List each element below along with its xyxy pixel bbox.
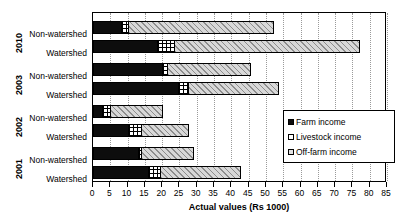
legend-swatch-livestock-income — [288, 134, 294, 140]
y-axis-category-label: Non-watershed — [20, 66, 90, 85]
stacked-bar — [93, 82, 279, 95]
stacked-bar — [93, 40, 360, 53]
bar-segment-offfarm — [110, 105, 163, 118]
bar-row — [93, 19, 385, 38]
y-axis-category-rows: Non-watershedWatershed — [20, 108, 90, 146]
x-axis-tick — [282, 182, 283, 187]
stacked-bar — [93, 147, 194, 160]
y-axis-category-label: Non-watershed — [20, 24, 90, 43]
y-axis-category-rows: Non-watershedWatershed — [20, 66, 90, 104]
y-axis-category-label: Watershed — [20, 85, 90, 104]
y-axis-category-label: Non-watershed — [20, 150, 90, 169]
bar-row — [93, 61, 385, 80]
bar-segment-farm — [93, 21, 122, 34]
x-axis-tick — [386, 182, 387, 187]
x-axis-tick — [178, 182, 179, 187]
x-axis-tick — [144, 182, 145, 187]
y-axis-category-label: Watershed — [20, 43, 90, 62]
x-axis-tick — [317, 182, 318, 187]
stacked-bar — [93, 63, 251, 76]
y-axis-category-label: Watershed — [20, 169, 90, 188]
bar-row — [93, 164, 385, 183]
y-axis-group-2001: 2001Non-watershedWatershed — [0, 150, 92, 188]
legend-label-farm-income: Farm income — [296, 117, 346, 127]
bar-row — [93, 38, 385, 57]
x-axis-tick — [369, 182, 370, 187]
legend-item-off-farm-income: Off-farm income — [288, 144, 391, 159]
bar-segment-offfarm — [141, 147, 194, 160]
bar-row — [93, 80, 385, 99]
bar-segment-farm — [93, 82, 179, 95]
legend-label-livestock-income: Livestock income — [296, 132, 361, 142]
y-axis-category-rows: Non-watershedWatershed — [20, 150, 90, 188]
stacked-bar — [93, 105, 163, 118]
bar-segment-farm — [93, 40, 158, 53]
bar-segment-livestock — [128, 124, 143, 137]
x-axis-tick — [213, 182, 214, 187]
stacked-bar — [93, 166, 241, 179]
x-axis-tick — [334, 182, 335, 187]
legend-item-livestock-income: Livestock income — [288, 129, 391, 144]
x-axis-tick — [265, 182, 266, 187]
x-axis-tick — [230, 182, 231, 187]
x-axis-tick-label: 85 — [375, 188, 397, 198]
y-axis-group-2003: 2003Non-watershedWatershed — [0, 66, 92, 104]
stacked-bar — [93, 124, 189, 137]
y-axis-category-rows: Non-watershedWatershed — [20, 24, 90, 62]
legend-item-farm-income: Farm income — [288, 114, 391, 129]
bar-segment-offfarm — [128, 21, 274, 34]
x-axis-tick — [196, 182, 197, 187]
legend-swatch-farm-income — [288, 119, 294, 125]
legend-swatch-off-farm-income — [288, 149, 294, 155]
bar-segment-offfarm — [141, 124, 189, 137]
legend-label-off-farm-income: Off-farm income — [296, 147, 357, 157]
bar-segment-farm — [93, 166, 149, 179]
x-axis-tick-labels: 0510152025303540455055606570758085 — [0, 188, 403, 200]
y-axis-category-label: Non-watershed — [20, 108, 90, 127]
bar-segment-farm — [93, 63, 163, 76]
bar-chart: 2010Non-watershedWatershed2003Non-waters… — [0, 0, 403, 222]
x-axis-tick — [127, 182, 128, 187]
bar-segment-offfarm — [174, 40, 360, 53]
x-axis-title: Actual values (Rs 1000) — [92, 202, 386, 212]
x-axis-tick — [161, 182, 162, 187]
bar-segment-farm — [93, 147, 139, 160]
bar-segment-offfarm — [167, 63, 251, 76]
x-axis-tick — [248, 182, 249, 187]
x-axis-tick — [300, 182, 301, 187]
bar-segment-farm — [93, 124, 129, 137]
y-axis-category-labels: 2010Non-watershedWatershed2003Non-waters… — [0, 18, 92, 178]
x-axis-tick — [92, 182, 93, 187]
chart-legend: Farm income Livestock income Off-farm in… — [283, 110, 395, 163]
y-axis-group-2010: 2010Non-watershedWatershed — [0, 24, 92, 62]
stacked-bar — [93, 21, 274, 34]
x-axis-tick — [351, 182, 352, 187]
bar-segment-offfarm — [160, 166, 241, 179]
y-axis-category-label: Watershed — [20, 127, 90, 146]
bar-segment-livestock — [157, 40, 175, 53]
y-axis-group-2002: 2002Non-watershedWatershed — [0, 108, 92, 146]
x-axis-tick — [109, 182, 110, 187]
bar-segment-offfarm — [188, 82, 279, 95]
